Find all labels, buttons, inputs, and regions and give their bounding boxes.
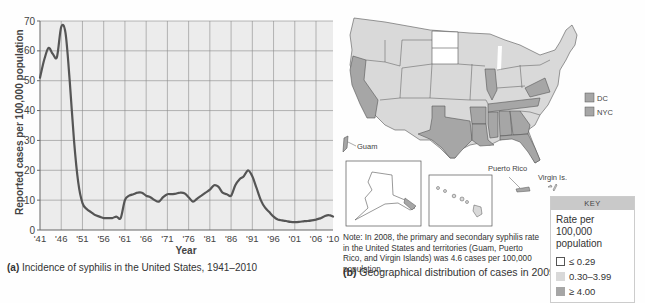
map-virgin-islands [548,184,557,191]
svg-text:'96: '96 [267,233,279,244]
key-item-label: 0.30–3.99 [569,271,611,282]
svg-text:'71: '71 [161,233,173,244]
dc-label: DC [597,94,608,103]
svg-text:'81: '81 [204,233,216,244]
svg-text:'41: '41 [34,233,46,244]
map-guam [343,136,348,152]
panel-b-label: (b) [343,266,356,278]
svg-text:'06: '06 [310,233,322,244]
svg-text:'91: '91 [246,233,258,244]
swatch-high [556,287,565,296]
panel-a-caption-text: Incidence of syphilis in the United Stat… [19,262,257,273]
x-axis-label: Year [175,245,196,256]
plot-area [40,21,333,230]
svg-text:50: 50 [24,75,36,86]
panel-b-caption: (b) Geographical distribution of cases i… [343,266,555,278]
dc-swatch [585,93,594,102]
nyc-label: NYC [597,108,613,117]
panel-a-label: (a) [7,262,19,273]
x-axis-ticks: '41'46'51'56'61'66'71'76'81'86'91'96'01'… [34,233,339,244]
nyc-swatch [585,107,594,116]
svg-text:60: 60 [24,45,36,56]
swatch-mid [556,272,565,281]
svg-text:'51: '51 [76,233,88,244]
svg-text:70: 70 [24,16,36,27]
map-puerto-rico [516,187,530,192]
key-header: KEY [551,197,634,210]
key-item-low: ≤ 0.29 [551,254,634,269]
key-item-mid: 0.30–3.99 [551,269,634,284]
key-item-high: ≥ 4.00 [551,284,634,302]
puerto-rico-label: Puerto Rico [488,164,527,173]
map-alabama [499,111,512,136]
y-axis-label: Reported cases per 100,000 population [14,29,25,215]
guam-label: Guam [357,142,377,151]
svg-text:'66: '66 [140,233,152,244]
key-item-label: ≥ 4.00 [569,286,595,297]
svg-text:'86: '86 [225,233,237,244]
swatch-low [556,257,565,266]
svg-text:30: 30 [24,135,36,146]
key-item-label: ≤ 0.29 [569,256,595,267]
virgin-islands-label: Virgin Is. [538,173,567,182]
svg-text:'61: '61 [119,233,131,244]
map-florida [500,134,540,163]
svg-text:'56: '56 [98,233,110,244]
svg-text:10: 10 [24,195,36,206]
y-axis-ticks: 010203040506070 [24,16,40,236]
key-title: Rate per 100,000 population [551,210,634,254]
map-key: KEY Rate per 100,000 population ≤ 0.29 0… [550,196,635,303]
map-arkansas [470,107,486,124]
svg-text:20: 20 [24,165,36,176]
map-dakotas [432,31,458,64]
svg-text:'46: '46 [55,233,67,244]
panel-b-caption-text: Geographical distribution of cases in 20… [356,266,554,278]
svg-text:40: 40 [24,105,36,116]
us-map [343,18,577,163]
panel-a-caption: (a) Incidence of syphilis in the United … [7,262,257,273]
svg-text:'76: '76 [182,233,194,244]
svg-text:'10: '10 [327,233,339,244]
svg-text:'01: '01 [289,233,301,244]
map-mississippi [488,112,498,138]
